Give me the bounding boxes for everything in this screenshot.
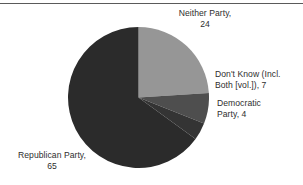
pie-slice-neither-party: [139, 27, 209, 98]
slice-label-neither-party: Neither Party, 24: [162, 8, 248, 31]
slice-label-dont-know: Don't Know (Incl. Both [vol.]), 7: [215, 69, 303, 92]
slice-label-republican-party: Republican Party, 65: [2, 150, 102, 173]
pie-chart-figure: Neither Party, 24 Don't Know (Incl. Both…: [0, 0, 303, 185]
pie-chart-graphic: [68, 27, 209, 168]
slice-label-democratic-party: Democratic Party, 4: [217, 98, 297, 121]
pie-svg: [68, 27, 209, 168]
top-divider-rule: [0, 3, 303, 4]
